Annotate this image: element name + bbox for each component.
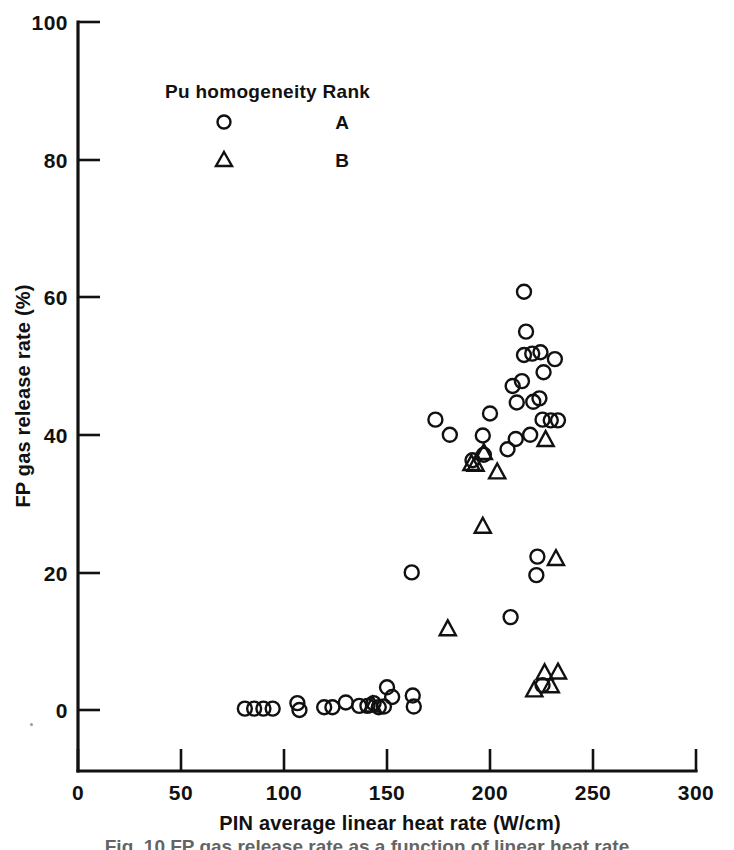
data-point-circle [533,345,547,359]
x-tick-label: 300 [678,781,715,804]
y-tick-label: 100 [31,11,68,34]
data-point-circle [504,610,518,624]
x-tick-label: 50 [169,781,193,804]
legend-triangle-marker [216,152,232,166]
x-tick-label: 200 [472,781,509,804]
data-point-circle [548,352,562,366]
x-tick-labels: 0 50 100 150 200 250 300 [72,781,714,804]
y-tick-label: 0 [56,699,68,722]
y-tick-labels: 100 80 60 40 20 0 [31,11,68,722]
y-axis-title: FP gas release rate (%) [12,284,34,507]
data-point-triangle [440,620,456,635]
data-point-circle [443,428,457,442]
y-tick-label: 80 [44,149,68,172]
legend-circle-marker [218,116,231,129]
legend-rank-b-label: B [335,150,349,171]
series-b-points [365,431,567,711]
data-point-triangle [548,550,564,565]
data-point-circle [510,395,524,409]
figure-caption-partial: Fig. 10 FP gas release rate as a functio… [0,836,734,850]
data-point-circle [339,695,353,709]
data-point-circle [266,702,280,716]
y-tick-label: 60 [44,286,68,309]
data-point-triangle [538,431,554,446]
legend-title: Pu homogeneity Rank [165,81,370,102]
data-point-circle [483,406,497,420]
data-point-circle [523,428,537,442]
x-tick-label: 100 [266,781,303,804]
y-axis-ticks [78,22,100,710]
data-point-triangle [489,463,505,478]
data-point-circle [517,285,531,299]
y-tick-label: 20 [44,562,68,585]
data-point-circle [529,568,543,582]
legend: Pu homogeneity Rank A B [165,81,370,171]
data-point-circle [428,413,442,427]
x-axis-ticks [78,749,696,771]
data-point-triangle [550,664,566,679]
data-point-circle [537,365,551,379]
legend-rank-a-label: A [335,112,349,133]
data-point-circle [530,550,544,564]
x-axis-title: PIN average linear heat rate (W/cm) [219,812,561,834]
data-point-circle [405,565,419,579]
data-point-circle [509,432,523,446]
data-point-triangle [526,682,542,697]
x-tick-label: 250 [575,781,612,804]
y-tick-label: 40 [44,424,68,447]
x-tick-label: 0 [72,781,84,804]
x-tick-label: 150 [369,781,406,804]
series-a-points [238,285,565,717]
data-point-circle [325,700,339,714]
data-point-circle [476,428,490,442]
data-point-circle [519,325,533,339]
data-point-triangle [475,518,491,533]
